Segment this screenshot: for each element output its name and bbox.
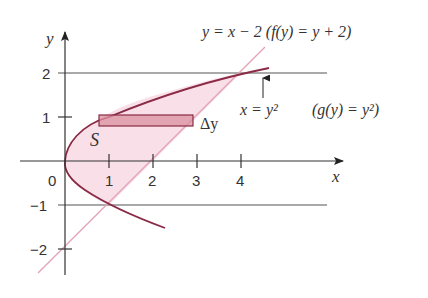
x-tick-4: 4 xyxy=(236,172,244,189)
delta-y-label: Δy xyxy=(200,115,218,133)
line-equation-label: y = x − 2 (f(y) = y + 2) xyxy=(200,23,351,41)
parabola-alt-label: (g(y) = y²) xyxy=(312,101,379,119)
x-tick-2: 2 xyxy=(148,172,156,189)
y-tick-2: 2 xyxy=(42,65,50,82)
origin-label: 0 xyxy=(48,172,56,189)
x-axis-label: x xyxy=(331,167,340,186)
y-tick-neg1: −1 xyxy=(30,197,47,214)
y-tick-1: 1 xyxy=(42,109,50,126)
x-tick-3: 3 xyxy=(192,172,200,189)
delta-y-strip xyxy=(99,115,193,126)
parabola-equation-label: x = y² xyxy=(239,101,279,119)
y-axis-label: y xyxy=(44,29,54,48)
y-tick-neg2: −2 xyxy=(30,241,47,258)
region-s-label: S xyxy=(90,130,99,150)
x-tick-1: 1 xyxy=(105,172,113,189)
area-between-curves-diagram: 1 2 3 4 0 1 2 −1 −2 x y y = x − 2 (f(y) … xyxy=(0,0,428,298)
